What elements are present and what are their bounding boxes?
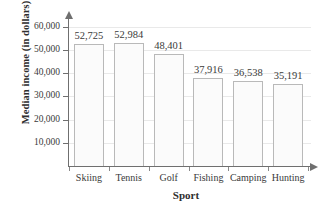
x-tick-mark	[189, 167, 190, 171]
x-axis-line	[68, 166, 311, 167]
y-tick-mark	[63, 96, 69, 97]
x-tick-mark	[69, 167, 70, 171]
bar-value-label: 52,984	[99, 29, 159, 40]
y-tick-mark	[63, 73, 69, 74]
x-tick-mark	[308, 167, 309, 171]
bar	[193, 78, 223, 166]
bar-value-label: 35,191	[258, 70, 318, 81]
y-tick-mark	[63, 27, 69, 28]
x-tick-mark	[268, 167, 269, 171]
bar	[233, 81, 263, 166]
y-tick-mark	[63, 120, 69, 121]
x-tick-mark	[149, 167, 150, 171]
x-axis-title: Sport	[60, 189, 312, 201]
y-tick-mark	[63, 143, 69, 144]
bar	[273, 84, 303, 166]
x-tick-label: Hunting	[258, 172, 318, 183]
y-tick-label: 40,000	[4, 67, 60, 77]
y-tick-label: 60,000	[4, 21, 60, 31]
bar-value-label: 48,401	[139, 40, 199, 51]
y-tick-mark	[63, 50, 69, 51]
bar-chart: Median income (in dollars) 60,00050,0004…	[0, 0, 325, 215]
y-tick-label: 30,000	[4, 90, 60, 100]
y-tick-label: 50,000	[4, 44, 60, 54]
x-axis-arrow-icon	[310, 163, 318, 171]
y-tick-label: 20,000	[4, 114, 60, 124]
y-tick-label: 10,000	[4, 137, 60, 147]
x-tick-mark	[228, 167, 229, 171]
gridline	[69, 27, 311, 28]
y-axis-arrow-icon	[65, 11, 73, 19]
bar	[74, 44, 104, 166]
bar	[114, 43, 144, 166]
x-tick-mark	[109, 167, 110, 171]
